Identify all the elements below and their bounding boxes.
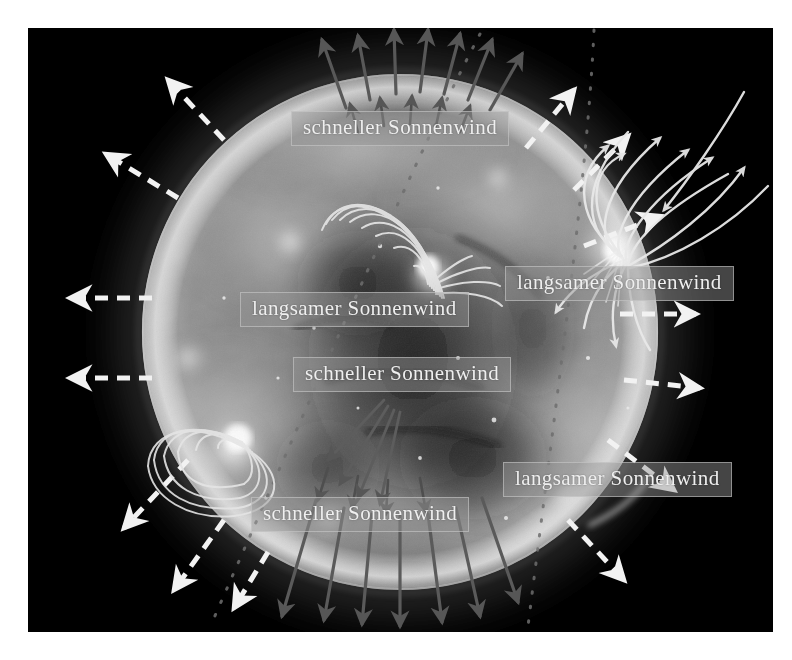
figure-stage: schneller Sonnenwind langsamer Sonnenwin… bbox=[0, 0, 792, 660]
label-fast-solar-wind-center: schneller Sonnenwind bbox=[293, 357, 511, 392]
solar-image-photo: schneller Sonnenwind langsamer Sonnenwin… bbox=[28, 28, 773, 632]
label-slow-solar-wind-right-lower: langsamer Sonnenwind bbox=[503, 462, 732, 497]
label-slow-solar-wind-right-upper: langsamer Sonnenwind bbox=[505, 266, 734, 301]
label-fast-solar-wind-north: schneller Sonnenwind bbox=[291, 111, 509, 146]
label-slow-solar-wind-center: langsamer Sonnenwind bbox=[240, 292, 469, 327]
label-fast-solar-wind-south: schneller Sonnenwind bbox=[251, 497, 469, 532]
